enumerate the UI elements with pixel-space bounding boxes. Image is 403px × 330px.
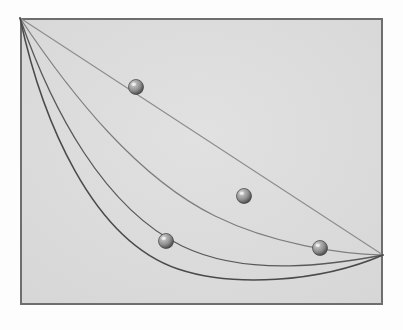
- sphere-on-shallow-curve: [237, 189, 252, 204]
- sphere-on-straight-line: [129, 80, 144, 95]
- brachistochrone-diagram: [0, 0, 403, 330]
- figure-container: [0, 0, 403, 330]
- sphere-body: [313, 241, 328, 256]
- sphere-highlight: [316, 244, 321, 247]
- sphere-body: [159, 234, 174, 249]
- sphere-highlight: [132, 83, 137, 86]
- sphere-body: [129, 80, 144, 95]
- sphere-highlight: [240, 192, 245, 195]
- sphere-highlight: [162, 237, 167, 240]
- sphere-body: [237, 189, 252, 204]
- sphere-on-cycloid: [159, 234, 174, 249]
- diagram-panel: [21, 19, 382, 304]
- sphere-on-medium-curve: [313, 241, 328, 256]
